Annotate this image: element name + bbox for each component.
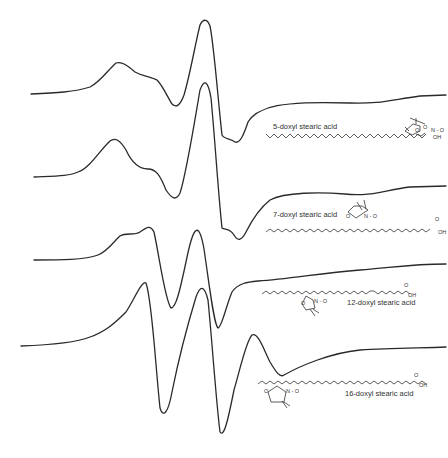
spectrum-12-doxyl bbox=[34, 227, 446, 328]
spectrum-7-doxyl bbox=[34, 83, 446, 239]
svg-text:O: O bbox=[264, 388, 269, 394]
svg-text:O: O bbox=[301, 300, 306, 306]
spectrum-5-doxyl bbox=[31, 20, 446, 142]
epr-spectra-figure: 5-doxyl stearic acid O N - O O OH 7-doxy… bbox=[0, 0, 448, 458]
svg-text:N - O: N - O bbox=[431, 127, 445, 133]
label-12-doxyl: 12-doxyl stearic acid bbox=[347, 298, 415, 307]
svg-text:O: O bbox=[346, 213, 351, 219]
svg-text:O: O bbox=[404, 282, 409, 288]
svg-text:OH: OH bbox=[433, 134, 441, 140]
svg-text:OH: OH bbox=[438, 229, 446, 235]
svg-text:N - O: N - O bbox=[364, 213, 378, 219]
svg-text:O: O bbox=[435, 216, 440, 222]
svg-text:N - O: N - O bbox=[286, 388, 300, 394]
label-16-doxyl: 16-doxyl stearic acid bbox=[345, 389, 413, 398]
structure-5-doxyl: 5-doxyl stearic acid O N - O O OH bbox=[266, 118, 445, 140]
svg-text:O: O bbox=[414, 372, 419, 378]
svg-text:OH: OH bbox=[419, 382, 427, 388]
structure-12-doxyl: O N - O O OH 12-doxyl stearic acid bbox=[262, 282, 416, 316]
structure-16-doxyl: O N - O O OH 16-doxyl stearic acid bbox=[258, 372, 427, 408]
structure-7-doxyl: 7-doxyl stearic acid O N - O O OH bbox=[266, 200, 446, 235]
svg-text:O: O bbox=[415, 127, 420, 133]
label-5-doxyl: 5-doxyl stearic acid bbox=[273, 122, 337, 131]
svg-text:N - O: N - O bbox=[314, 298, 328, 304]
svg-text:O: O bbox=[423, 124, 428, 130]
label-7-doxyl: 7-doxyl stearic acid bbox=[273, 210, 337, 219]
